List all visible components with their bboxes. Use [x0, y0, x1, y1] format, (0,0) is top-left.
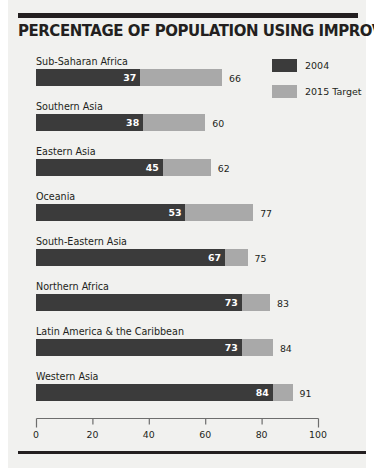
bar-group: Northern Africa7383	[8, 281, 366, 326]
bar-track: 67	[36, 249, 248, 266]
bar-2004: 45	[36, 159, 163, 176]
title-top-rule	[18, 13, 358, 18]
bar-group: Southern Asia3860	[8, 101, 366, 146]
x-axis-tick-label: 100	[303, 429, 333, 440]
category-label: Latin America & the Caribbean	[36, 326, 184, 337]
bar-value-2015-target: 84	[280, 343, 292, 354]
category-label: Southern Asia	[36, 101, 103, 112]
x-axis-tick-label: 60	[190, 429, 220, 440]
bar-2004: 73	[36, 294, 242, 311]
bar-track: 73	[36, 339, 273, 356]
category-label: South-Eastern Asia	[36, 236, 127, 247]
category-label: Northern Africa	[36, 281, 109, 292]
bar-track: 84	[36, 384, 293, 401]
bar-value-2015-target: 91	[300, 388, 312, 399]
bar-value-2004: 67	[181, 252, 225, 263]
bar-value-2004: 73	[198, 342, 242, 353]
footer-bottom-rule	[18, 451, 366, 454]
x-axis-tick-label: 80	[247, 429, 277, 440]
bar-group: Oceania5377	[8, 191, 366, 236]
x-axis-tick-label: 40	[134, 429, 164, 440]
bar-2004: 38	[36, 114, 143, 131]
bar-2004: 53	[36, 204, 185, 221]
bar-value-2015-target: 75	[255, 253, 267, 264]
plot-area: Sub-Saharan Africa3766Southern Asia3860E…	[8, 56, 366, 416]
category-label: Sub-Saharan Africa	[36, 56, 128, 67]
bar-track: 73	[36, 294, 270, 311]
x-axis: 020406080100	[8, 416, 366, 446]
category-label: Eastern Asia	[36, 146, 96, 157]
bar-value-2015-target: 60	[212, 118, 224, 129]
bar-value-2004: 73	[198, 297, 242, 308]
bar-2004: 73	[36, 339, 242, 356]
bar-value-2004: 84	[229, 387, 273, 398]
bar-2004: 37	[36, 69, 140, 86]
bar-track: 38	[36, 114, 205, 131]
chart-card: PERCENTAGE OF POPULATION USING IMPROVED …	[8, 0, 366, 468]
bar-value-2015-target: 83	[277, 298, 289, 309]
category-label: Western Asia	[36, 371, 99, 382]
bar-group: Eastern Asia4562	[8, 146, 366, 191]
bar-value-2004: 38	[99, 117, 143, 128]
x-axis-line	[8, 416, 366, 430]
bar-track: 53	[36, 204, 253, 221]
chart-title: PERCENTAGE OF POPULATION USING IMPROVED …	[18, 22, 357, 40]
bar-value-2004: 37	[96, 72, 140, 83]
bar-2004: 67	[36, 249, 225, 266]
bar-track: 45	[36, 159, 211, 176]
x-axis-tick-label: 0	[21, 429, 51, 440]
bar-group: South-Eastern Asia6775	[8, 236, 366, 281]
bar-value-2004: 53	[141, 207, 185, 218]
bar-group: Western Asia8491	[8, 371, 366, 416]
bar-value-2015-target: 62	[218, 163, 230, 174]
bar-group: Latin America & the Caribbean7384	[8, 326, 366, 371]
bar-track: 37	[36, 69, 222, 86]
bar-value-2004: 45	[119, 162, 163, 173]
x-axis-tick-label: 20	[77, 429, 107, 440]
bar-value-2015-target: 77	[260, 208, 272, 219]
bar-group: Sub-Saharan Africa3766	[8, 56, 366, 101]
category-label: Oceania	[36, 191, 75, 202]
bar-value-2015-target: 66	[229, 73, 241, 84]
bar-2004: 84	[36, 384, 273, 401]
